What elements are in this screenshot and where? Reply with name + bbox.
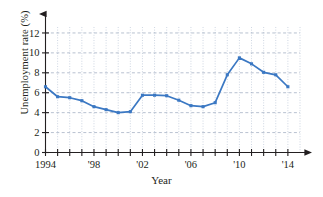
data-point-marker bbox=[238, 56, 241, 59]
unemployment-rate-chart: Unemployment rate (%) Year 024681012 199… bbox=[0, 0, 323, 197]
data-point-marker bbox=[250, 62, 253, 65]
data-point-marker bbox=[68, 96, 71, 99]
data-point-marker bbox=[274, 73, 277, 76]
y-tick-label: 10 bbox=[29, 47, 40, 58]
data-point-marker bbox=[129, 110, 132, 113]
data-point-marker bbox=[105, 108, 108, 111]
data-point-marker bbox=[262, 71, 265, 74]
y-tick-label: 4 bbox=[34, 107, 40, 118]
data-point-marker bbox=[226, 73, 229, 76]
x-tick-label: '02 bbox=[136, 159, 148, 170]
x-tick-label: '14 bbox=[282, 159, 295, 170]
data-point-marker bbox=[153, 94, 156, 97]
data-point-marker bbox=[92, 105, 95, 108]
data-point-marker bbox=[117, 111, 120, 114]
x-tick-label: '10 bbox=[233, 159, 245, 170]
data-point-marker bbox=[214, 101, 217, 104]
data-point-marker bbox=[44, 85, 47, 88]
data-point-marker bbox=[141, 94, 144, 97]
data-point-marker bbox=[177, 99, 180, 102]
data-point-marker bbox=[202, 105, 205, 108]
x-tick-label: '06 bbox=[185, 159, 197, 170]
gridlines bbox=[46, 27, 301, 153]
y-tick-label: 12 bbox=[29, 28, 40, 39]
y-tick-label: 2 bbox=[34, 127, 39, 138]
y-tick-label: 6 bbox=[34, 87, 39, 98]
plot-area: 024681012 1994'98'02'06'10'14 bbox=[0, 0, 323, 197]
x-axis: 1994'98'02'06'10'14 bbox=[35, 149, 311, 170]
data-point-marker bbox=[286, 85, 289, 88]
data-point-marker bbox=[189, 104, 192, 107]
data-point-marker bbox=[165, 94, 168, 97]
x-tick-label: '98 bbox=[88, 159, 100, 170]
data-point-marker bbox=[80, 99, 83, 102]
y-tick-label: 8 bbox=[34, 67, 39, 78]
y-tick-label: 0 bbox=[34, 147, 39, 158]
data-point-marker bbox=[56, 95, 59, 98]
x-tick-label: 1994 bbox=[35, 159, 57, 170]
